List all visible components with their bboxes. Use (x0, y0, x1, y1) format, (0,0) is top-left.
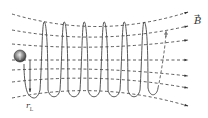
larmor-radius-label: rL (26, 101, 33, 112)
field-line (12, 26, 188, 37)
field-lines (12, 12, 188, 106)
field-line (12, 91, 188, 106)
helix-cross-mark (164, 31, 168, 37)
radius-subscript: L (30, 106, 33, 112)
field-line (12, 69, 188, 76)
magnetic-field-label: B (194, 15, 201, 26)
field-line (12, 12, 188, 27)
field-line (12, 40, 188, 47)
